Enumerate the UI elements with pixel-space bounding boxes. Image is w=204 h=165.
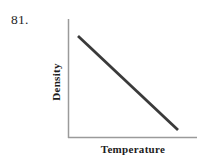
y-axis-title-text: Density	[51, 63, 62, 101]
figure-container: 81. Density Temperature	[0, 0, 204, 165]
data-series-line	[78, 36, 178, 130]
x-axis-title: Temperature	[68, 144, 198, 155]
y-axis-title: Density	[48, 49, 64, 115]
chart-plot-area	[0, 0, 204, 165]
chart-svg	[0, 0, 204, 165]
